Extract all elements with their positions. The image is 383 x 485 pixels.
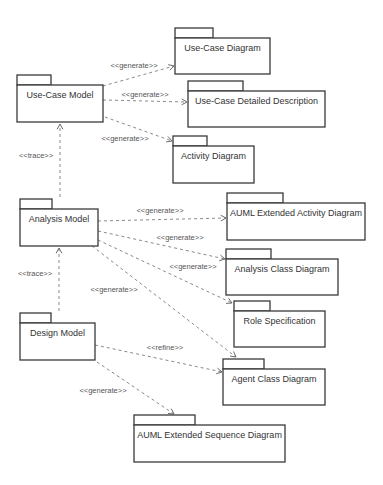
package-design-model[interactable]: Design Model [20,313,95,360]
stereotype-label: <<generate>> [110,61,158,70]
dependency-design-model-to-analysis-model: <<trace>> [18,248,62,311]
open-arrow-head-icon [168,409,174,414]
package-tab [134,415,195,425]
package-tab [20,313,51,323]
package-tab [20,199,52,209]
package-label: Analysis Model [29,214,90,224]
dependency-analysis-model-to-analysis-class: <<generate>> [98,231,225,261]
dependency-use-case-model-to-activity-diagram: <<generate>> [101,117,172,143]
stereotype-label: <<trace>> [18,269,53,278]
package-label: Use-Case Model [26,90,93,100]
package-tab [175,28,213,38]
package-activity-diagram[interactable]: Activity Diagram [173,136,254,183]
stereotype-label: <<generate>> [79,386,127,395]
package-label: Role Specification [243,316,315,326]
package-use-case-detailed[interactable]: Use-Case Detailed Description [188,81,325,127]
package-tab [173,136,207,146]
package-label: Agent Class Diagram [231,374,316,384]
stereotype-label: <<refine>> [147,343,184,352]
open-arrow-head-icon [166,137,172,142]
package-role-spec[interactable]: Role Specification [234,301,325,347]
package-auml-activity[interactable]: AUML Extended Activity Diagram [227,193,365,240]
dependency-design-model-to-auml-sequence: <<generate>> [79,362,174,414]
stereotype-label: <<generate>> [169,262,217,271]
package-tab [188,81,243,91]
dependency-design-model-to-agent-class: <<refine>> [95,343,222,374]
open-arrow-head-icon [230,352,236,357]
dependency-analysis-model-to-use-case-model: <<trace>> [19,124,63,197]
package-tab [234,301,270,311]
package-label: Activity Diagram [181,151,246,161]
package-layer: Use-Case ModelUse-Case DiagramUse-Case D… [17,28,365,462]
package-label: Use-Case Diagram [184,43,261,53]
dependency-line [103,100,187,102]
package-auml-sequence[interactable]: AUML Extended Sequence Diagram [134,415,285,462]
stereotype-label: <<generate>> [156,233,204,242]
package-tab [227,193,283,203]
stereotype-label: <<generate>> [101,134,149,143]
package-analysis-model[interactable]: Analysis Model [20,199,98,246]
dependency-analysis-model-to-auml-activity: <<generate>> [98,206,226,221]
stereotype-label: <<trace>> [19,151,54,160]
open-arrow-head-icon [221,215,226,221]
dependency-use-case-model-to-use-case-diagram: <<generate>> [103,61,174,86]
package-use-case-model[interactable]: Use-Case Model [17,75,103,122]
open-arrow-head-icon [226,298,232,303]
package-tab [226,249,271,259]
stereotype-label: <<generate>> [121,90,169,99]
dependency-line [98,218,226,221]
package-label: Use-Case Detailed Description [195,96,318,106]
package-agent-class[interactable]: Agent Class Diagram [223,359,325,405]
package-tab [17,75,51,85]
package-label: Analysis Class Diagram [234,264,329,274]
dependency-use-case-model-to-use-case-detailed: <<generate>> [103,90,187,105]
package-label: Design Model [30,328,85,338]
package-label: AUML Extended Activity Diagram [230,208,362,218]
package-label: AUML Extended Sequence Diagram [137,430,282,440]
stereotype-label: <<generate>> [136,206,184,215]
package-use-case-diagram[interactable]: Use-Case Diagram [175,28,270,74]
uml-package-diagram: <<generate>><<generate>><<generate>><<tr… [0,0,383,485]
package-analysis-class[interactable]: Analysis Class Diagram [226,249,338,295]
stereotype-label: <<generate>> [90,285,138,294]
package-tab [223,359,264,369]
